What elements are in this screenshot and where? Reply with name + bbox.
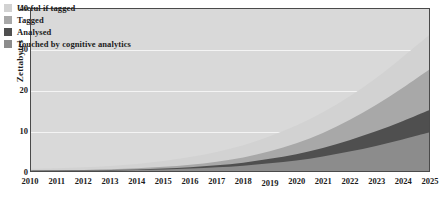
legend-label: Touched by cognitive analytics xyxy=(17,39,131,49)
legend-item[interactable]: Tagged xyxy=(4,14,131,25)
stacked-area-chart: Zettabytes 010203040 2010201120122013201… xyxy=(0,0,443,198)
y-tick-label: 20 xyxy=(2,85,28,95)
legend: Useful if taggedTaggedAnalysedTouched by… xyxy=(4,2,131,50)
legend-item[interactable]: Useful if tagged xyxy=(4,2,131,13)
legend-item[interactable]: Touched by cognitive analytics xyxy=(4,38,131,49)
legend-swatch-icon xyxy=(4,40,12,48)
x-tick-label: 2025 xyxy=(410,176,443,186)
legend-label: Tagged xyxy=(17,15,44,25)
legend-swatch-icon xyxy=(4,28,12,36)
y-tick-label: 10 xyxy=(2,126,28,136)
legend-label: Useful if tagged xyxy=(17,3,75,13)
legend-item[interactable]: Analysed xyxy=(4,26,131,37)
legend-swatch-icon xyxy=(4,4,12,12)
legend-swatch-icon xyxy=(4,16,12,24)
x-axis-tick-labels: 2010201120122013201420152016201720182019… xyxy=(30,176,430,194)
legend-label: Analysed xyxy=(17,27,51,37)
